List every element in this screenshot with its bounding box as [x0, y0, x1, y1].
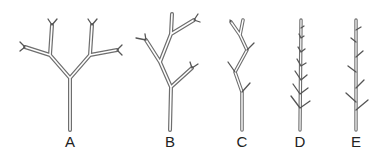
tree-e: [346, 20, 368, 130]
tree-d: [291, 20, 310, 130]
tree-a: [20, 19, 122, 130]
branching-diagram: [0, 0, 388, 155]
tree-c: [228, 20, 254, 130]
panel-label-c: C: [237, 134, 248, 149]
panel-label-d: D: [295, 134, 306, 149]
panel-label-b: B: [165, 134, 175, 149]
panel-label-e: E: [351, 134, 361, 149]
tree-b: [136, 14, 200, 130]
panel-label-a: A: [65, 134, 75, 149]
